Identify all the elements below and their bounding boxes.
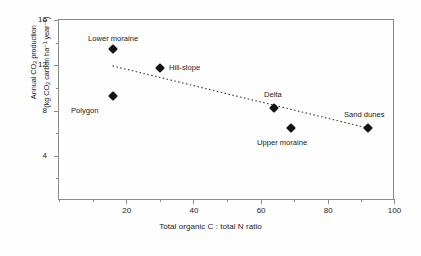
x-tick-10 <box>93 199 94 202</box>
x-tick-label-20: 20 <box>122 206 131 215</box>
x-tick-100: 100 <box>394 199 395 204</box>
chart-figure: Annual CO2 production (kg CO2 carbon ha−… <box>0 0 421 256</box>
x-tick-20: 20 <box>126 199 127 204</box>
x-tick-50 <box>227 199 228 202</box>
y-tick-12: 12 <box>54 65 59 66</box>
x-axis-title: Total organic C : total N ratio <box>0 222 421 231</box>
data-label-polygon: Polygon <box>71 106 98 115</box>
data-point-delta[interactable] <box>269 103 279 113</box>
x-tick-80: 80 <box>328 199 329 204</box>
x-tick-label-80: 80 <box>324 206 333 215</box>
y-tick-label-4: 4 <box>43 151 47 160</box>
data-label-delta: Delta <box>264 90 282 99</box>
y-tick-10 <box>56 88 59 89</box>
x-tick-label-40: 40 <box>189 206 198 215</box>
y-tick-8: 8 <box>54 111 59 112</box>
x-tick-label-60: 60 <box>257 206 266 215</box>
y-axis-title-line1: Annual CO2 production <box>29 25 38 99</box>
ha-exponent: −1 <box>41 41 47 47</box>
data-point-upper-moraine[interactable] <box>286 123 296 133</box>
co2-subscript: 2 <box>32 61 38 64</box>
data-label-lower-moraine: Lower moraine <box>88 34 138 43</box>
data-label-upper-moraine: Upper moraine <box>257 138 307 147</box>
data-label-sand-dunes: Sand dunes <box>344 110 385 119</box>
plot-area: 16 12 8 4 20 40 60 80 <box>58 19 394 200</box>
x-tick-30 <box>160 199 161 202</box>
data-point-lower-moraine[interactable] <box>108 44 118 54</box>
data-point-sand-dunes[interactable] <box>363 123 373 133</box>
x-tick-90 <box>361 199 362 202</box>
y-tick-label-16: 16 <box>38 15 47 24</box>
data-point-hill-slope[interactable] <box>155 63 165 73</box>
x-tick-60: 60 <box>261 199 262 204</box>
x-tick-70 <box>294 199 295 202</box>
y-tick-4: 4 <box>54 156 59 157</box>
x-tick-0 <box>59 199 60 202</box>
x-tick-label-100: 100 <box>388 206 401 215</box>
y-tick-16: 16 <box>54 20 59 21</box>
co2-subscript-2: 2 <box>45 82 51 85</box>
data-point-polygon[interactable] <box>108 91 118 101</box>
y-tick-label-12: 12 <box>38 60 47 69</box>
x-tick-40: 40 <box>193 199 194 204</box>
y-tick-14 <box>56 43 59 44</box>
y-tick-6 <box>56 133 59 134</box>
y-tick-2 <box>56 178 59 179</box>
y-tick-label-8: 8 <box>43 106 47 115</box>
data-label-hill-slope: Hill-slope <box>169 63 200 72</box>
